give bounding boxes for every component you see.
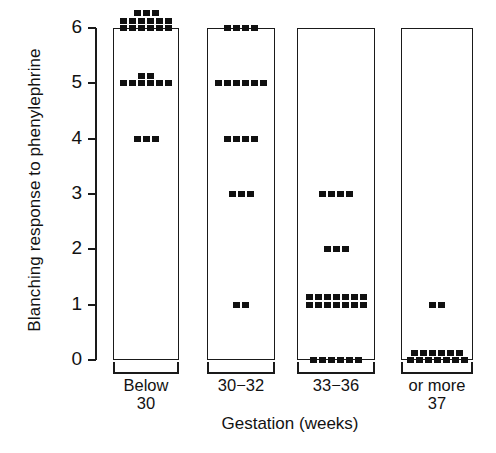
data-point <box>147 25 154 31</box>
y-tick-mark <box>88 304 96 306</box>
data-point <box>129 18 136 24</box>
data-point <box>129 80 136 86</box>
data-point <box>147 80 154 86</box>
data-point <box>120 18 127 24</box>
group-bracket <box>401 362 473 374</box>
group-bracket <box>297 362 375 374</box>
data-point <box>351 302 358 308</box>
data-point <box>438 350 445 356</box>
y-axis-title: Blanching response to phenylephrine <box>25 10 45 370</box>
data-point <box>438 302 445 308</box>
y-tick-label: 4 <box>52 128 82 147</box>
group-column-box <box>113 28 179 360</box>
data-point <box>156 18 163 24</box>
y-tick-label: 0 <box>52 349 82 368</box>
y-tick-label: 3 <box>52 183 82 202</box>
dot-plot-figure: Blanching response to phenylephrine 0123… <box>0 0 496 453</box>
data-point <box>238 191 245 197</box>
data-point <box>215 80 222 86</box>
data-point <box>342 294 349 300</box>
data-point <box>337 191 344 197</box>
x-group-label-line1: 30−32 <box>218 376 264 394</box>
data-point <box>251 136 258 142</box>
x-axis-title: Gestation (weeks) <box>95 414 485 434</box>
data-point <box>324 246 331 252</box>
data-point <box>242 25 249 31</box>
data-point <box>165 25 172 31</box>
group-column-box <box>401 28 473 360</box>
y-tick-mark <box>88 248 96 250</box>
data-point <box>233 136 240 142</box>
y-tick-label: 2 <box>52 238 82 257</box>
data-point <box>233 80 240 86</box>
data-point <box>247 191 254 197</box>
group-column-box <box>297 28 375 360</box>
data-point <box>360 294 367 300</box>
data-point <box>333 302 340 308</box>
data-point <box>152 136 159 142</box>
data-point <box>306 302 313 308</box>
data-point <box>165 18 172 24</box>
data-point <box>251 80 258 86</box>
group-bracket <box>113 362 179 374</box>
data-point <box>156 25 163 31</box>
data-point <box>420 350 427 356</box>
data-point <box>138 25 145 31</box>
y-tick-mark <box>88 193 96 195</box>
data-point <box>233 25 240 31</box>
y-tick-mark <box>88 27 96 29</box>
data-point <box>447 350 454 356</box>
data-point <box>224 80 231 86</box>
data-point <box>138 73 145 79</box>
x-group-label-line1: or more <box>409 376 466 394</box>
group-bracket <box>207 362 275 374</box>
data-point <box>333 246 340 252</box>
y-tick-label: 5 <box>52 72 82 91</box>
data-point <box>328 191 335 197</box>
data-point <box>165 80 172 86</box>
data-point <box>342 246 349 252</box>
data-point <box>233 302 240 308</box>
x-group-label: or more37 <box>377 376 496 413</box>
data-point <box>315 294 322 300</box>
data-point <box>324 294 331 300</box>
data-point <box>242 80 249 86</box>
data-point <box>251 25 258 31</box>
data-point <box>342 302 349 308</box>
data-point <box>224 25 231 31</box>
data-point <box>429 350 436 356</box>
data-point <box>134 136 141 142</box>
x-group-label-line2: 37 <box>377 394 496 412</box>
data-point <box>152 10 159 16</box>
data-point <box>147 18 154 24</box>
x-group-label-line1: Below <box>124 376 169 394</box>
x-group-label-line2: 30 <box>86 394 206 412</box>
data-point <box>242 136 249 142</box>
y-tick-mark <box>88 138 96 140</box>
data-point <box>156 80 163 86</box>
data-point <box>120 80 127 86</box>
x-group-label-line1: 33−36 <box>313 376 359 394</box>
y-tick-label: 1 <box>52 294 82 313</box>
data-point <box>260 80 267 86</box>
data-point <box>138 18 145 24</box>
data-point <box>456 350 463 356</box>
data-point <box>143 136 150 142</box>
data-point <box>129 25 136 31</box>
data-point <box>242 302 249 308</box>
data-point <box>429 302 436 308</box>
y-tick-label: 6 <box>52 17 82 36</box>
y-tick-mark <box>88 359 96 361</box>
data-point <box>138 80 145 86</box>
data-point <box>324 302 331 308</box>
data-point <box>351 294 358 300</box>
data-point <box>229 191 236 197</box>
data-point <box>411 350 418 356</box>
data-point <box>346 191 353 197</box>
data-point <box>224 136 231 142</box>
data-point <box>134 10 141 16</box>
data-point <box>143 10 150 16</box>
data-point <box>147 73 154 79</box>
y-tick-mark <box>88 82 96 84</box>
data-point <box>315 302 322 308</box>
